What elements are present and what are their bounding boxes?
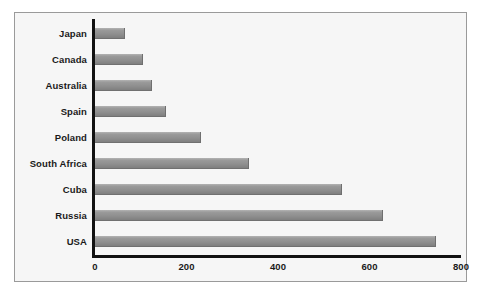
bar xyxy=(95,106,166,117)
category-label: Canada xyxy=(15,47,87,73)
bar-row: Cuba xyxy=(15,177,468,203)
bar xyxy=(95,28,125,39)
x-axis-line xyxy=(92,255,461,258)
category-label: Russia xyxy=(15,203,87,229)
category-label: USA xyxy=(15,229,87,255)
plot-area: JapanCanadaAustraliaSpainPolandSouth Afr… xyxy=(15,13,468,283)
category-label: Spain xyxy=(15,99,87,125)
chart-panel: JapanCanadaAustraliaSpainPolandSouth Afr… xyxy=(14,12,467,282)
category-label: Cuba xyxy=(15,177,87,203)
bar-row: Japan xyxy=(15,21,468,47)
bar xyxy=(95,132,201,143)
bar xyxy=(95,184,342,195)
bar xyxy=(95,80,152,91)
x-tick-label: 400 xyxy=(248,261,308,272)
category-label: Australia xyxy=(15,73,87,99)
category-label: Poland xyxy=(15,125,87,151)
chart-figure: JapanCanadaAustraliaSpainPolandSouth Afr… xyxy=(0,0,493,296)
bar-row: Poland xyxy=(15,125,468,151)
bar xyxy=(95,236,436,247)
bar xyxy=(95,158,249,169)
bar-row: Spain xyxy=(15,99,468,125)
x-tick-label: 200 xyxy=(157,261,217,272)
x-tick-label: 600 xyxy=(340,261,400,272)
category-label: South Africa xyxy=(15,151,87,177)
bar xyxy=(95,210,383,221)
bar xyxy=(95,54,143,65)
bar-row: Russia xyxy=(15,203,468,229)
bar-row: South Africa xyxy=(15,151,468,177)
x-tick-label: 800 xyxy=(431,261,491,272)
x-tick-label: 0 xyxy=(65,261,125,272)
bar-row: Australia xyxy=(15,73,468,99)
bar-row: USA xyxy=(15,229,468,255)
bar-row: Canada xyxy=(15,47,468,73)
category-label: Japan xyxy=(15,21,87,47)
